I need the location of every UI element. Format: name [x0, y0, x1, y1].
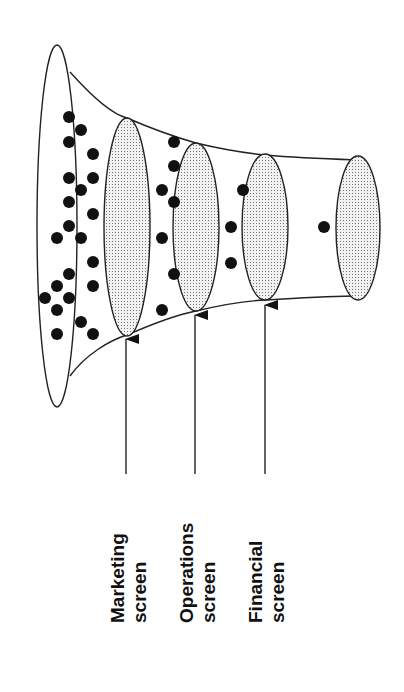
operations-screen [173, 143, 219, 311]
candidates-before-marketing [39, 111, 99, 340]
marketing-screen [104, 118, 150, 336]
financial-label-line1: Financial [245, 541, 266, 623]
candidates-after-financial [318, 221, 330, 233]
marketing-label-line2: screen [129, 562, 150, 623]
screening-funnel-diagram: Marketing screen Operations screen Finan… [0, 0, 404, 692]
operations-label-line1: Operations [176, 523, 197, 623]
operations-label: Operations screen [176, 523, 219, 623]
operations-label-line2: screen [198, 562, 219, 623]
output-screen [336, 156, 380, 300]
financial-screen [242, 154, 288, 300]
marketing-label-line1: Marketing [107, 533, 128, 623]
financial-label-line2: screen [267, 562, 288, 623]
marketing-label: Marketing screen [107, 533, 150, 623]
financial-label: Financial screen [245, 541, 288, 623]
